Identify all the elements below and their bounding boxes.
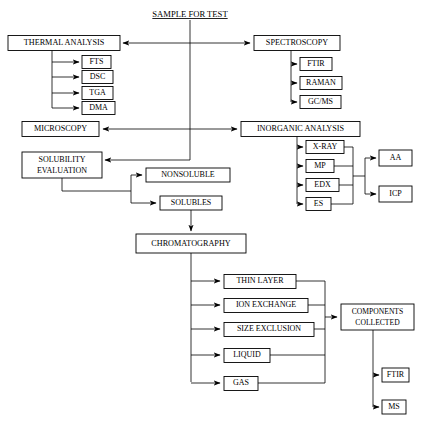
- diagram-title: SAMPLE FOR TEST: [152, 9, 228, 19]
- label-ftir-top: FTIR: [307, 59, 325, 68]
- label-edx: EDX: [314, 180, 331, 189]
- label-raman: RAMAN: [306, 78, 336, 87]
- label-inorganic-analysis: INORGANIC ANALYSIS: [257, 124, 345, 133]
- label-solubility-evaluation-line2: EVALUATION: [37, 166, 87, 175]
- label-solubility-evaluation-line1: SOLUBILITY: [38, 155, 85, 164]
- label-tga: TGA: [89, 88, 106, 97]
- label-gcms: GC/MS: [308, 97, 333, 106]
- label-components-collected-line1: COMPONENTS: [352, 307, 403, 316]
- label-microscopy: MICROSCOPY: [34, 124, 87, 133]
- label-dma: DMA: [89, 103, 108, 112]
- label-es: ES: [314, 199, 323, 208]
- label-ms: MS: [388, 402, 400, 411]
- flowchart-canvas: SAMPLE FOR TEST THERMAL ANALYSIS FTS DSC…: [0, 0, 428, 431]
- label-spectroscopy: SPECTROSCOPY: [266, 38, 328, 47]
- label-liquid: LIQUID: [233, 350, 261, 359]
- solubility-out: [62, 178, 131, 191]
- label-mp: MP: [314, 161, 326, 170]
- label-aa: AA: [390, 153, 402, 162]
- label-nonsoluble: NONSOLUBLE: [161, 170, 214, 179]
- label-xray: X-RAY: [313, 142, 338, 151]
- label-ion-exchange: ION EXCHANGE: [236, 300, 296, 309]
- label-components-collected-line2: COLLECTED: [355, 318, 400, 327]
- label-ftir-bottom: FTIR: [387, 370, 405, 379]
- label-solubles: SOLUBLES: [171, 198, 211, 207]
- label-fts: FTS: [90, 57, 104, 66]
- label-thermal-analysis: THERMAL ANALYSIS: [24, 38, 105, 47]
- label-dsc: DSC: [90, 72, 106, 81]
- label-chromatography: CHROMATOGRAPHY: [151, 239, 231, 248]
- label-size-exclusion: SIZE EXCLUSION: [237, 324, 301, 333]
- label-thin-layer: THIN LAYER: [236, 276, 284, 285]
- label-gas: GAS: [233, 378, 249, 387]
- label-icp: ICP: [389, 189, 402, 198]
